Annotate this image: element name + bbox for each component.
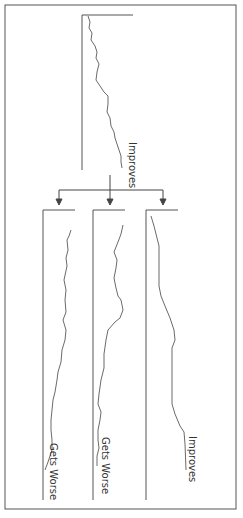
- branch-chart-2: Gets Worse: [93, 210, 125, 500]
- branch-chart-1: Gets Worse: [43, 210, 75, 500]
- diagram: Improves Gets Worse Gets Worse Improves: [0, 0, 243, 518]
- arrow-down-icon: [56, 199, 62, 205]
- frame: [5, 5, 236, 509]
- branch-3-label: Improves: [187, 436, 198, 482]
- arrow-down-icon: [160, 199, 166, 205]
- branch-chart-3: Improves: [146, 210, 198, 500]
- top-chart-label: Improves: [127, 142, 138, 188]
- branch-2-label: Gets Worse: [100, 437, 111, 494]
- top-chart: Improves: [82, 15, 138, 188]
- branch-arrows: [56, 175, 166, 205]
- branch-1-label: Gets Worse: [48, 443, 59, 500]
- arrow-down-icon: [107, 199, 113, 205]
